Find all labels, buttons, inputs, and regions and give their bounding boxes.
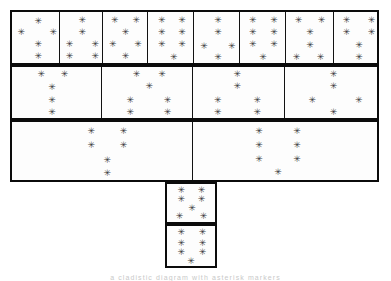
- asterisk-marker: ✳: [78, 28, 87, 37]
- asterisk-marker: ✳: [126, 95, 135, 104]
- asterisk-marker: ✳: [87, 127, 96, 136]
- asterisk-marker: ✳: [294, 16, 303, 25]
- diagram-cell-r1c3: ✳✳✳✳✳✳: [102, 12, 147, 63]
- asterisk-marker: ✳: [367, 28, 376, 37]
- asterisk-marker: ✳: [178, 28, 187, 37]
- asterisk-marker: ✳: [342, 28, 351, 37]
- asterisk-marker: ✳: [306, 28, 315, 37]
- diagram-cell-r3c2: ✳✳✳✳✳✳✳: [192, 122, 381, 180]
- asterisk-marker: ✳: [65, 40, 74, 49]
- asterisk-marker: ✳: [317, 16, 326, 25]
- asterisk-marker: ✳: [200, 41, 209, 50]
- asterisk-marker: ✳: [34, 51, 43, 60]
- diagram-cell-r2c3: ✳✳✳✳✳✳: [192, 67, 284, 118]
- asterisk-marker: ✳: [253, 107, 262, 116]
- asterisk-marker: ✳: [65, 51, 74, 60]
- asterisk-marker: ✳: [233, 70, 242, 79]
- asterisk-marker: ✳: [119, 141, 128, 150]
- diagram-cell-r3c1: ✳✳✳✳✳✳: [12, 122, 192, 180]
- asterisk-marker: ✳: [119, 127, 128, 136]
- asterisk-marker: ✳: [274, 167, 283, 176]
- asterisk-marker: ✳: [163, 95, 172, 104]
- asterisk-marker: ✳: [126, 107, 135, 116]
- asterisk-marker: ✳: [37, 70, 46, 79]
- asterisk-marker: ✳: [48, 83, 57, 92]
- asterisk-marker: ✳: [108, 40, 117, 49]
- asterisk-marker: ✳: [49, 28, 58, 37]
- asterisk-marker: ✳: [270, 28, 279, 37]
- asterisk-marker: ✳: [158, 70, 167, 79]
- asterisk-marker: ✳: [34, 17, 43, 26]
- diagram-cell-r1c7: ✳✳✳✳✳✳: [285, 12, 333, 63]
- asterisk-marker: ✳: [306, 40, 315, 49]
- asterisk-marker: ✳: [367, 16, 376, 25]
- diagram-leaf-1: ✳✳✳✳✳✳✳: [165, 182, 217, 224]
- asterisk-marker: ✳: [255, 141, 264, 150]
- diagram-cell-r1c2: ✳✳✳✳✳✳: [59, 12, 102, 63]
- diagram-cell-r1c1: ✳✳✳✳✳: [12, 12, 59, 63]
- asterisk-marker: ✳: [255, 155, 264, 164]
- asterisk-marker: ✳: [91, 40, 100, 49]
- asterisk-marker: ✳: [292, 155, 301, 164]
- asterisk-marker: ✳: [292, 52, 301, 61]
- asterisk-marker: ✳: [253, 95, 262, 104]
- diagram-cell-r1c8: ✳✳✳✳✳✳: [333, 12, 381, 63]
- asterisk-marker: ✳: [197, 195, 206, 204]
- diagram-cell-r1c4: ✳✳✳✳✳✳✳: [147, 12, 193, 63]
- asterisk-marker: ✳: [248, 16, 257, 25]
- diagram-cell-r2c4: ✳✳✳✳✳: [284, 67, 381, 118]
- asterisk-marker: ✳: [329, 82, 338, 91]
- asterisk-marker: ✳: [157, 28, 166, 37]
- asterisk-marker: ✳: [213, 52, 222, 61]
- asterisk-marker: ✳: [17, 28, 26, 37]
- asterisk-marker: ✳: [213, 95, 222, 104]
- asterisk-marker: ✳: [354, 52, 363, 61]
- asterisk-marker: ✳: [213, 107, 222, 116]
- asterisk-marker: ✳: [259, 52, 268, 61]
- diagram-row-3: ✳✳✳✳✳✳✳✳✳✳✳✳✳: [10, 120, 379, 182]
- diagram-cell-r1c6: ✳✳✳✳✳✳✳: [239, 12, 285, 63]
- asterisk-marker: ✳: [91, 51, 100, 60]
- asterisk-marker: ✳: [103, 155, 112, 164]
- asterisk-marker: ✳: [308, 95, 317, 104]
- asterisk-marker: ✳: [255, 127, 264, 136]
- asterisk-marker: ✳: [48, 107, 57, 116]
- asterisk-marker: ✳: [316, 52, 325, 61]
- asterisk-marker: ✳: [292, 141, 301, 150]
- asterisk-marker: ✳: [178, 16, 187, 25]
- asterisk-marker: ✳: [134, 40, 143, 49]
- asterisk-marker: ✳: [103, 169, 112, 178]
- asterisk-marker: ✳: [169, 52, 178, 61]
- diagram-row-2: ✳✳✳✳✳✳✳✳✳✳✳✳✳✳✳✳✳✳✳✳✳✳✳: [10, 65, 379, 120]
- asterisk-marker: ✳: [198, 248, 207, 257]
- asterisk-marker: ✳: [248, 28, 257, 37]
- diagram-row-1: ✳✳✳✳✳✳✳✳✳✳✳✳✳✳✳✳✳✳✳✳✳✳✳✳✳✳✳✳✳✳✳✳✳✳✳✳✳✳✳✳…: [10, 10, 379, 65]
- asterisk-marker: ✳: [354, 95, 363, 104]
- diagram-cell-r2c2: ✳✳✳✳✳✳✳: [101, 67, 192, 118]
- asterisk-marker: ✳: [34, 39, 43, 48]
- asterisk-marker: ✳: [110, 16, 119, 25]
- diagram-cell-r2c1: ✳✳✳✳✳: [12, 67, 101, 118]
- asterisk-marker: ✳: [329, 70, 338, 79]
- asterisk-marker: ✳: [87, 141, 96, 150]
- asterisk-marker: ✳: [177, 195, 186, 204]
- asterisk-marker: ✳: [78, 16, 87, 25]
- asterisk-marker: ✳: [198, 228, 207, 237]
- asterisk-marker: ✳: [329, 107, 338, 116]
- asterisk-marker: ✳: [157, 16, 166, 25]
- asterisk-marker: ✳: [248, 40, 257, 49]
- asterisk-marker: ✳: [177, 248, 186, 257]
- diagram-leaf-2: ✳✳✳✳✳✳✳: [165, 224, 217, 268]
- asterisk-marker: ✳: [187, 257, 196, 266]
- asterisk-marker: ✳: [177, 228, 186, 237]
- asterisk-marker: ✳: [354, 40, 363, 49]
- asterisk-marker: ✳: [199, 211, 208, 220]
- asterisk-marker: ✳: [187, 203, 196, 212]
- figure-caption: a cladistic diagram with asterisk marker…: [0, 274, 391, 281]
- asterisk-marker: ✳: [132, 16, 141, 25]
- asterisk-marker: ✳: [270, 40, 279, 49]
- asterisk-marker: ✳: [178, 40, 187, 49]
- asterisk-marker: ✳: [163, 107, 172, 116]
- asterisk-marker: ✳: [292, 127, 301, 136]
